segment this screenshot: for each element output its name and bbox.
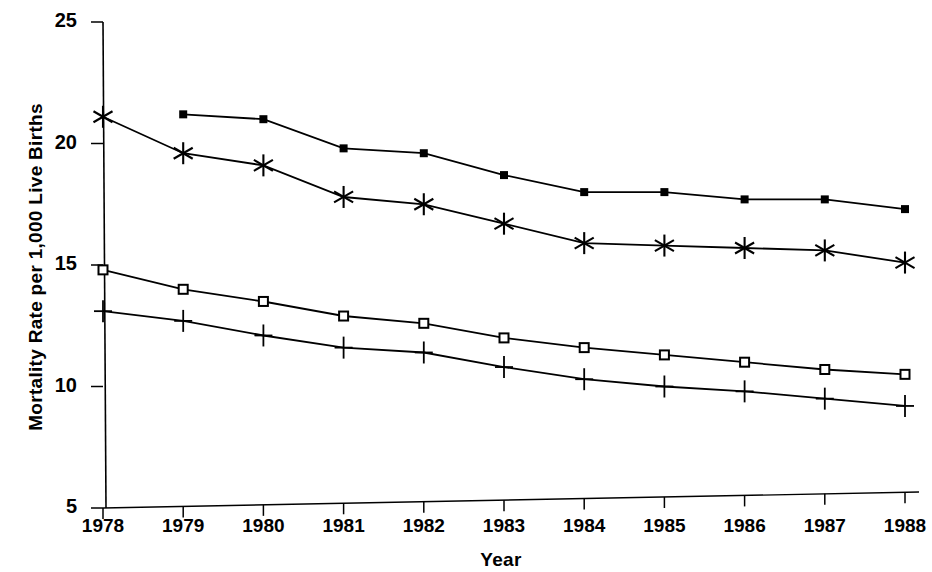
axis-lines (103, 22, 919, 508)
data-point-filled-square (741, 195, 749, 203)
data-point-open-square (99, 265, 108, 274)
tick-marks (91, 22, 905, 519)
data-point-open-square (259, 297, 268, 306)
data-point-filled-square (821, 195, 829, 203)
series-1-filled-square (179, 110, 909, 213)
x-axis-title: Year (0, 549, 932, 571)
y-tick-label: 10 (17, 374, 77, 397)
data-point-asterisk (494, 213, 513, 235)
data-point-plus (816, 388, 834, 410)
x-tick-label: 1986 (700, 515, 790, 537)
data-point-open-square (339, 312, 348, 321)
data-point-plus (655, 376, 673, 398)
data-point-plus (174, 310, 192, 332)
data-point-open-square (500, 333, 509, 342)
x-tick-label: 1981 (299, 515, 389, 537)
data-point-filled-square (500, 171, 508, 179)
data-point-plus (736, 380, 754, 402)
data-point-plus (94, 300, 112, 322)
x-tick-label: 1988 (860, 515, 932, 537)
x-tick-label: 1985 (619, 515, 709, 537)
data-series-layer (93, 106, 914, 417)
x-tick-label: 1987 (780, 515, 870, 537)
data-point-filled-square (420, 149, 428, 157)
data-point-plus (495, 356, 513, 378)
data-point-asterisk (254, 154, 273, 176)
data-point-filled-square (340, 144, 348, 152)
data-point-open-square (820, 365, 829, 374)
data-point-filled-square (580, 188, 588, 196)
data-point-filled-square (660, 188, 668, 196)
data-point-asterisk (174, 142, 193, 164)
series-line (103, 117, 905, 263)
data-point-open-square (419, 319, 428, 328)
mortality-rate-line-chart: Mortality Rate per 1,000 Live Births Yea… (0, 0, 932, 572)
x-tick-label: 1983 (459, 515, 549, 537)
x-tick-label: 1984 (539, 515, 629, 537)
data-point-plus (415, 341, 433, 363)
x-tick-label: 1978 (58, 515, 148, 537)
data-point-open-square (179, 285, 188, 294)
data-point-plus (335, 337, 353, 359)
data-point-open-square (740, 358, 749, 367)
data-point-plus (896, 395, 914, 417)
data-point-open-square (660, 350, 669, 359)
data-point-filled-square (259, 115, 267, 123)
data-point-asterisk (93, 106, 112, 128)
data-point-open-square (901, 370, 910, 379)
y-tick-label: 15 (17, 252, 77, 275)
chart-plot-area (0, 0, 932, 572)
data-point-plus (254, 324, 272, 346)
x-axis-line (103, 492, 919, 508)
series-2-asterisk (93, 106, 914, 274)
data-point-filled-square (179, 110, 187, 118)
data-point-open-square (580, 343, 589, 352)
data-point-filled-square (901, 205, 909, 213)
x-tick-label: 1979 (138, 515, 228, 537)
data-point-asterisk (895, 252, 914, 274)
x-tick-label: 1980 (218, 515, 308, 537)
data-point-plus (575, 368, 593, 390)
y-tick-label: 20 (17, 131, 77, 154)
y-tick-label: 25 (17, 9, 77, 32)
x-tick-label: 1982 (379, 515, 469, 537)
series-line (183, 114, 905, 209)
series-4-plus (94, 300, 914, 417)
